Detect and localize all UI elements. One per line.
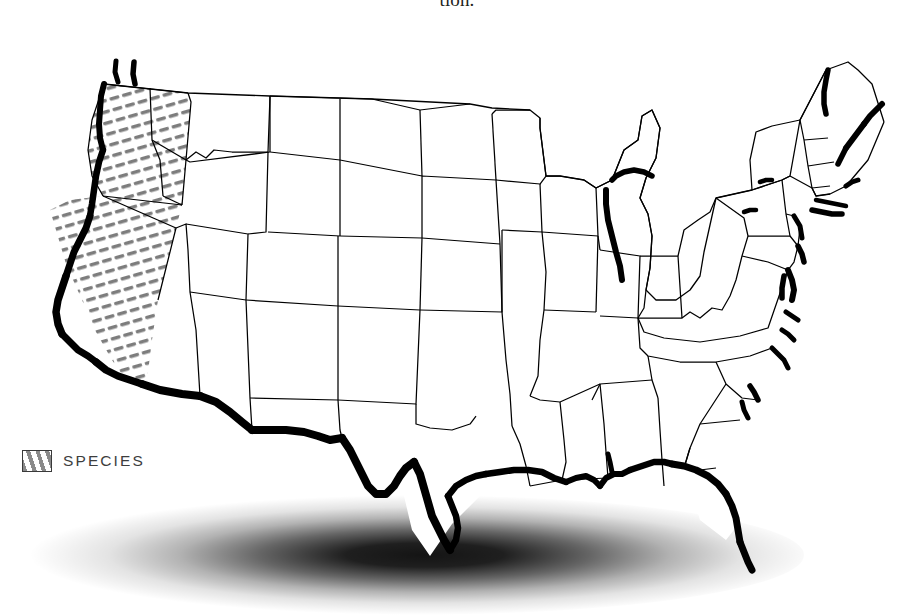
species-distribution-figure: tion.	[0, 0, 914, 616]
legend-label-species: SPECIES	[63, 453, 145, 469]
map-legend: SPECIES	[22, 450, 145, 472]
legend-swatch-species-hatch	[22, 450, 52, 472]
united-states-map	[0, 0, 914, 616]
